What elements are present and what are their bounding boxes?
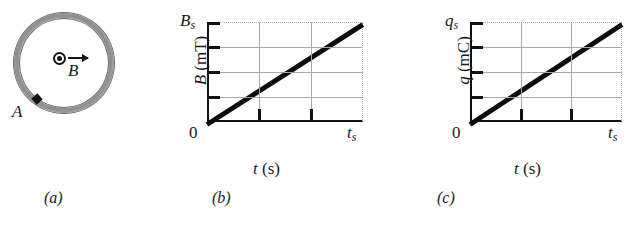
chart-c-origin-label: 0: [452, 124, 461, 141]
gridline-horizontal: [207, 72, 363, 73]
chart-b-y-max-subscript: s: [190, 18, 195, 32]
magnetic-field-label: B: [68, 62, 78, 79]
gridline-horizontal: [470, 72, 622, 73]
chart-c-x-unit: (s): [523, 159, 541, 178]
gridline-horizontal: [207, 47, 363, 48]
x-axis-tick: [570, 109, 573, 122]
chart-c-y-max-subscript: s: [454, 18, 459, 32]
caption-panel-c: (c): [437, 190, 455, 206]
gridline-vertical: [259, 22, 260, 122]
chart-c-y-max-symbol: q: [445, 11, 454, 30]
y-axis-tick-max: [470, 22, 483, 25]
chart-c-y-unit: (mC): [454, 36, 473, 72]
chart-c-x-axis-label: t (s): [514, 160, 541, 177]
chart-b-x-max-tick-label: ts: [347, 124, 357, 143]
x-axis-tick: [520, 109, 523, 122]
gridline-vertical: [521, 22, 522, 122]
chart-c-charge-vs-time: [470, 22, 622, 122]
physics-figure: A B B (mT) Bs 0 ts t (s) q (mC) qs 0 ts …: [0, 0, 634, 232]
chart-b-y-unit: (mT): [191, 36, 210, 71]
y-axis-tick: [207, 96, 220, 99]
gridline-vertical: [571, 22, 572, 122]
chart-c-x-max-tick-label: ts: [608, 124, 618, 143]
x-axis-tick: [310, 109, 313, 122]
gridline-vertical: [311, 22, 312, 122]
chart-b-x-max-subscript: s: [352, 130, 357, 144]
field-direction-arrow-icon: [68, 57, 88, 59]
x-axis-tick: [258, 109, 261, 122]
panel-a-loop-diagram: A B: [0, 0, 150, 150]
gridline-horizontal: [207, 97, 363, 98]
y-axis-tick-max: [207, 22, 220, 25]
chart-b-y-max-symbol: B: [180, 11, 190, 30]
point-a-label: A: [12, 103, 22, 120]
chart-b-y-symbol: B: [191, 75, 210, 85]
chart-b-x-axis-label: t (s): [253, 160, 280, 177]
field-out-of-page-icon: [53, 52, 66, 65]
chart-b-x-unit: (s): [262, 159, 280, 178]
chart-b-magnetic-field-vs-time: [207, 22, 363, 122]
y-axis-tick: [470, 96, 483, 99]
caption-panel-a: (a): [44, 190, 63, 206]
chart-c-y-symbol: q: [454, 76, 473, 85]
chart-b-y-max-tick-label: Bs: [180, 12, 195, 31]
gridline-horizontal: [470, 97, 622, 98]
chart-b-origin-label: 0: [189, 124, 198, 141]
caption-panel-b: (b): [212, 190, 231, 206]
chart-c-y-max-tick-label: qs: [445, 12, 458, 31]
chart-c-x-max-subscript: s: [613, 130, 618, 144]
gridline-horizontal: [470, 47, 622, 48]
